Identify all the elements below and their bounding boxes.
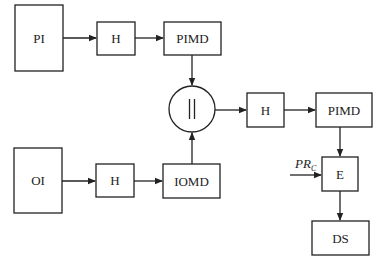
node-e: E [322,157,358,191]
node-iomd-label: IOMD [174,174,209,189]
node-e-label: E [336,167,344,182]
node-pimd-top: PIMD [164,22,221,55]
input-prc-main: PR [294,156,311,171]
node-pi: PI [15,5,63,71]
node-pimd-right: PIMD [316,93,372,127]
input-prc-label: PRC [294,156,317,173]
node-ds: DS [312,221,369,255]
node-ds-label: DS [332,231,349,246]
node-pimd-top-label: PIMD [176,31,209,46]
node-h-top-label: H [111,31,120,46]
node-h-mid: H [247,93,284,127]
node-h-mid-label: H [261,103,270,118]
node-oi: OI [14,148,62,213]
node-pi-label: PI [33,31,45,46]
node-concat [169,86,215,132]
node-h-top: H [97,22,135,55]
node-iomd: IOMD [163,164,220,198]
node-pimd-right-label: PIMD [328,103,361,118]
input-prc-subscript: C [311,164,317,173]
node-h-bottom-label: H [110,173,119,188]
node-h-bottom: H [96,164,134,197]
node-oi-label: OI [31,173,45,188]
flow-diagram: PI H PIMD H PIMD OI H IOMD E DS [0,0,382,265]
